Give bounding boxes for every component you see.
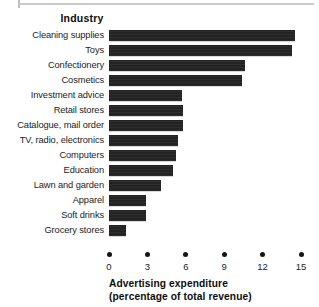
bar	[109, 90, 182, 102]
bar-track	[109, 180, 161, 192]
category-label: Investment advice	[0, 89, 104, 102]
bar	[109, 60, 245, 72]
plot-area: Cleaning suppliesToysConfectioneryCosmet…	[0, 29, 319, 239]
bar	[109, 210, 146, 222]
bar	[109, 165, 173, 177]
column-header-industry: Industry	[0, 12, 164, 24]
bar-track	[109, 210, 146, 222]
bar-track	[109, 90, 182, 102]
axis-tick-label: 12	[257, 261, 268, 272]
chart-row: Confectionery	[0, 59, 319, 74]
axis-tick-label: 0	[106, 261, 111, 272]
category-label: Cleaning supplies	[0, 29, 104, 42]
bar	[109, 120, 183, 132]
chart-row: Computers	[0, 149, 319, 164]
bar	[109, 45, 292, 57]
bar-track	[109, 45, 292, 57]
category-label: Retail stores	[0, 104, 104, 117]
category-label: Computers	[0, 149, 104, 162]
bar	[109, 30, 295, 42]
bar	[109, 75, 242, 87]
caption-line-1: Advertising expenditure	[109, 277, 319, 290]
bar-track	[109, 60, 245, 72]
caption-line-2: (percentage of total revenue)	[109, 290, 319, 303]
chart-row: Cosmetics	[0, 74, 319, 89]
category-label: Apparel	[0, 194, 104, 207]
category-label: Soft drinks	[0, 209, 104, 222]
category-label: Toys	[0, 44, 104, 57]
x-axis: 03691215	[0, 252, 319, 278]
axis-tick-dot	[107, 252, 112, 257]
bar	[109, 135, 178, 147]
bar-track	[109, 120, 183, 132]
axis-tick-dot	[260, 252, 265, 257]
category-label: Confectionery	[0, 59, 104, 72]
chart-row: Investment advice	[0, 89, 319, 104]
bar-track	[109, 225, 126, 237]
category-label: Grocery stores	[0, 224, 104, 237]
bar	[109, 225, 126, 237]
bar-track	[109, 30, 295, 42]
bar-track	[109, 165, 173, 177]
chart-row: Retail stores	[0, 104, 319, 119]
chart-row: Grocery stores	[0, 224, 319, 239]
bar	[109, 150, 176, 162]
figure-border-top	[18, 3, 314, 5]
chart-row: Soft drinks	[0, 209, 319, 224]
chart-row: Lawn and garden	[0, 179, 319, 194]
bar-track	[109, 105, 183, 117]
axis-tick-dot	[183, 252, 188, 257]
bar-track	[109, 135, 178, 147]
category-label: Cosmetics	[0, 74, 104, 87]
category-label: Lawn and garden	[0, 179, 104, 192]
bar-track	[109, 150, 176, 162]
bar-chart-figure: Industry Cleaning suppliesToysConfection…	[0, 0, 319, 307]
axis-tick-dot	[145, 252, 150, 257]
bar-track	[109, 75, 242, 87]
chart-row: Catalogue, mail order	[0, 119, 319, 134]
bar	[109, 105, 183, 117]
category-label: Education	[0, 164, 104, 177]
axis-tick-dot	[222, 252, 227, 257]
axis-caption: Advertising expenditure (percentage of t…	[109, 277, 319, 303]
axis-tick-label: 9	[222, 261, 227, 272]
bar-track	[109, 195, 146, 207]
axis-tick-label: 3	[145, 261, 150, 272]
chart-row: Cleaning supplies	[0, 29, 319, 44]
chart-row: Education	[0, 164, 319, 179]
axis-tick-dot	[299, 252, 304, 257]
axis-tick-label: 6	[183, 261, 188, 272]
bar	[109, 195, 146, 207]
bar	[109, 180, 161, 192]
chart-row: Toys	[0, 44, 319, 59]
chart-row: Apparel	[0, 194, 319, 209]
category-label: TV, radio, electronics	[0, 134, 104, 147]
axis-tick-label: 15	[296, 261, 307, 272]
chart-row: TV, radio, electronics	[0, 134, 319, 149]
category-label: Catalogue, mail order	[0, 119, 104, 132]
